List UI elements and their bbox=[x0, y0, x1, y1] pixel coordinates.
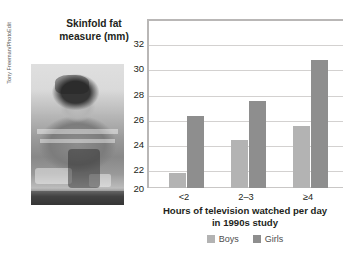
x-axis-title-line2: in 1990s study bbox=[140, 217, 350, 229]
photo-image bbox=[31, 64, 124, 205]
bar-girls-lt2 bbox=[187, 116, 204, 188]
photo-credit: Tony Freeman/PhotoEdit bbox=[6, 0, 12, 107]
y-tick-22: 22 bbox=[122, 164, 144, 175]
legend: Boys Girls bbox=[140, 234, 350, 244]
photograph bbox=[31, 64, 124, 205]
bar-boys-2to3 bbox=[231, 140, 248, 188]
bar-girls-2to3 bbox=[249, 101, 266, 188]
x-tick-ge4: ≥4 bbox=[303, 192, 313, 202]
y-tick-28: 28 bbox=[122, 88, 144, 99]
figure-root: Tony Freeman/PhotoEdit Skinfold fat meas… bbox=[0, 0, 352, 255]
plot-area bbox=[147, 19, 343, 188]
legend-label-boys: Boys bbox=[219, 234, 239, 244]
legend-item-boys: Boys bbox=[207, 234, 239, 244]
y-tick-30: 30 bbox=[122, 63, 144, 74]
y-tick-24: 24 bbox=[122, 139, 144, 150]
x-axis-title: Hours of television watched per day in 1… bbox=[140, 205, 350, 228]
y-tick-20: 20 bbox=[122, 183, 144, 194]
legend-swatch-girls bbox=[253, 235, 261, 243]
gridline bbox=[149, 45, 343, 46]
x-tick-lt2: <2 bbox=[179, 192, 190, 202]
y-tick-26: 26 bbox=[122, 113, 144, 124]
x-tick-2to3: 2–3 bbox=[238, 192, 254, 202]
y-axis-title: Skinfold fat measure (mm) bbox=[44, 18, 144, 43]
legend-label-girls: Girls bbox=[265, 234, 284, 244]
x-axis-title-line1: Hours of television watched per day bbox=[140, 205, 350, 217]
legend-item-girls: Girls bbox=[253, 234, 284, 244]
bar-boys-ge4 bbox=[293, 126, 310, 188]
bar-boys-lt2 bbox=[169, 173, 186, 188]
legend-swatch-boys bbox=[207, 235, 215, 243]
bar-girls-ge4 bbox=[311, 60, 328, 188]
